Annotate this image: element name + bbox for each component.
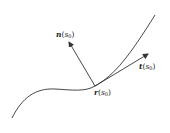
normal-vector-label: n(s0): [56, 31, 74, 39]
paren-close: ): [152, 62, 155, 71]
paren-close: ): [108, 88, 111, 97]
point-label: r(s0): [94, 89, 111, 97]
tangent-vector-label: t(s0): [139, 63, 155, 71]
paren-close: ): [71, 30, 74, 39]
normal-vector-arrow: [69, 42, 95, 86]
